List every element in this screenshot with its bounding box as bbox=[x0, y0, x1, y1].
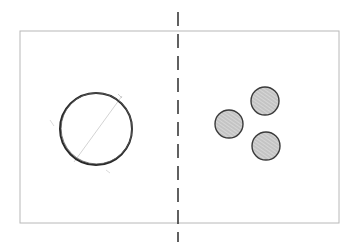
hatched-circle-left bbox=[215, 110, 243, 138]
construction-tick-left bbox=[50, 120, 54, 126]
construction-tick-top bbox=[118, 94, 122, 98]
construction-tick-bottom bbox=[106, 170, 110, 173]
frame-rectangle bbox=[20, 31, 339, 223]
diagram-canvas bbox=[0, 0, 356, 252]
right-panel bbox=[215, 87, 280, 160]
hatched-circle-bottom-right bbox=[252, 132, 280, 160]
left-panel bbox=[50, 93, 132, 173]
hatched-circle-top-right bbox=[251, 87, 279, 115]
construction-line bbox=[74, 96, 122, 162]
large-outline-circle-retrace bbox=[61, 93, 132, 164]
